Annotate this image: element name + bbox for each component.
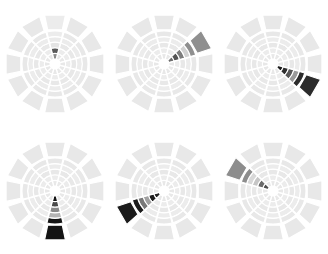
ring-segment [191,182,197,198]
ring-segment [22,55,28,71]
center-hub [50,59,60,69]
highlighted-ring-segment [49,206,60,212]
ring-segment [142,58,148,69]
ring-segment [159,169,170,175]
radial-chart [3,12,107,116]
ring-segment [252,185,258,196]
radial-chart [112,12,216,116]
outer-petal [154,142,175,157]
ring-segment [142,185,148,196]
ring-segment [268,42,279,48]
radial-panel-panel-5[interactable] [109,127,218,254]
outer-petal [6,180,21,201]
outer-petal [198,180,213,201]
ring-segment [265,30,281,36]
outer-petal [115,180,130,201]
ring-segment [300,55,306,71]
ring-segment [159,42,170,48]
ring-segment [159,206,170,212]
ring-segment [47,158,63,164]
ring-segment [156,30,172,36]
ring-segment [268,169,279,175]
ring-segment [33,58,39,69]
center-hub [159,59,169,69]
ring-segment [81,182,87,198]
radial-chart [221,12,325,116]
figure-canvas [0,0,328,254]
outer-petal [263,15,284,30]
ring-segment [159,79,170,85]
ring-segment [156,158,172,164]
highlighted-ring-segment [49,42,60,48]
ring-segment [265,158,281,164]
outer-petal [115,53,130,74]
highlighted-ring-segment [47,217,63,223]
ring-segment [33,185,39,196]
highlighted-ring-segment [47,30,63,36]
radial-panel-panel-6[interactable] [219,127,328,254]
outer-petal [154,15,175,30]
outer-petal [224,53,239,74]
outer-petal [308,53,323,74]
outer-petal [308,180,323,201]
ring-segment [70,58,76,69]
outer-petal [89,180,104,201]
highlighted-outer-petal [44,225,65,240]
ring-segment [265,90,281,96]
outer-petal [198,53,213,74]
ring-segment [240,55,246,71]
ring-segment [22,182,28,198]
center-hub [50,186,60,196]
radial-panel-panel-1[interactable] [0,0,109,127]
ring-segment [180,58,186,69]
outer-petal [89,53,104,74]
ring-segment [252,58,258,69]
radial-chart [112,139,216,243]
outer-petal [224,180,239,201]
ring-segment [156,90,172,96]
ring-segment [156,217,172,223]
ring-segment [49,169,60,175]
ring-segment [265,217,281,223]
ring-segment [268,79,279,85]
center-hub [268,59,278,69]
outer-petal [263,225,284,240]
ring-segment [268,206,279,212]
outer-petal [154,98,175,113]
radial-panel-panel-2[interactable] [109,0,218,127]
ring-segment [191,55,197,71]
radial-panel-panel-4[interactable] [0,127,109,254]
ring-segment [180,185,186,196]
ring-segment [131,55,137,71]
highlighted-outer-petal [44,15,65,30]
ring-segment [47,90,63,96]
ring-segment [289,58,295,69]
panel-grid [0,0,328,254]
outer-petal [6,53,21,74]
ring-segment [131,182,137,198]
ring-segment [81,55,87,71]
outer-petal [44,142,65,157]
radial-chart [3,139,107,243]
ring-segment [300,182,306,198]
radial-chart [221,139,325,243]
ring-segment [49,79,60,85]
outer-petal [263,142,284,157]
center-hub [159,186,169,196]
ring-segment [240,182,246,198]
center-hub [268,186,278,196]
ring-segment [289,185,295,196]
outer-petal [263,98,284,113]
outer-petal [44,98,65,113]
radial-panel-panel-3[interactable] [219,0,328,127]
outer-petal [154,225,175,240]
ring-segment [70,185,76,196]
